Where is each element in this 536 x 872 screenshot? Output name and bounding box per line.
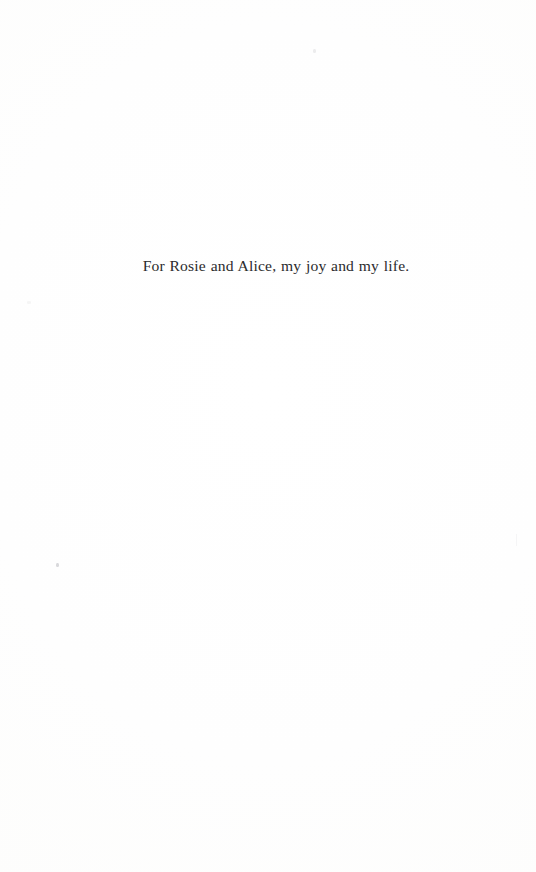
dedication-block: For Rosie and Alice, my joy and my life. (0, 256, 536, 276)
scan-speck-top-icon (313, 49, 316, 53)
scan-speck-left-upper-icon (27, 301, 31, 304)
book-page: For Rosie and Alice, my joy and my life. (0, 0, 536, 872)
scan-speck-left-lower-icon (56, 563, 59, 567)
dedication-text: For Rosie and Alice, my joy and my life. (143, 256, 410, 276)
scan-mark-right-edge-icon (516, 534, 517, 546)
